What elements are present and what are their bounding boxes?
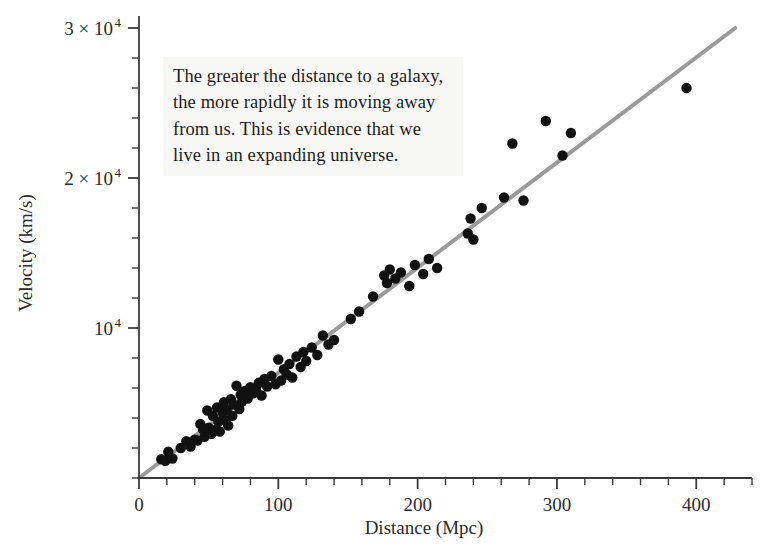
svg-text:2 × 10: 2 × 10 [64,168,113,189]
data-point [385,264,395,274]
data-point [557,150,567,160]
x-tick-label: 100 [264,494,293,515]
svg-text:4: 4 [115,315,122,330]
data-point [368,291,378,301]
data-point [477,203,487,213]
x-tick-label: 400 [682,494,711,515]
data-point [354,306,364,316]
data-point [318,330,328,340]
data-point [273,354,283,364]
data-point [223,420,233,430]
svg-text:3 × 10: 3 × 10 [64,18,113,39]
annotation-text: The greater the distance to a galaxy, th… [173,66,443,165]
data-point [346,314,356,324]
hubble-diagram-figure: 01002003004001042 × 1043 × 104 Distance … [0,0,762,554]
data-point [465,213,475,223]
data-point [329,335,339,345]
data-point [566,128,576,138]
svg-text:4: 4 [115,165,122,180]
data-point [518,195,528,205]
data-point [312,350,322,360]
y-tick-label: 2 × 104 [64,165,121,189]
data-point [418,269,428,279]
data-point [499,192,509,202]
annotation-callout: The greater the distance to a galaxy, th… [163,57,463,176]
svg-text:10: 10 [94,318,113,339]
data-point [681,83,691,93]
data-point [396,267,406,277]
y-tick-label: 3 × 104 [64,15,121,39]
y-axis-title: Velocity (km/s) [15,194,37,312]
data-point [215,426,225,436]
data-point [256,390,266,400]
x-tick-label: 200 [403,494,432,515]
data-point [507,138,517,148]
svg-text:4: 4 [115,15,122,30]
data-point [410,260,420,270]
x-tick-label: 0 [134,494,144,515]
data-point [301,356,311,366]
x-axis-title: Distance (Mpc) [365,517,484,539]
data-point [404,281,414,291]
data-point [432,263,442,273]
y-tick-label: 104 [94,315,122,339]
data-point [167,453,177,463]
data-point [287,372,297,382]
data-point [468,234,478,244]
data-point [424,254,434,264]
data-point [541,116,551,126]
x-tick-label: 300 [543,494,572,515]
